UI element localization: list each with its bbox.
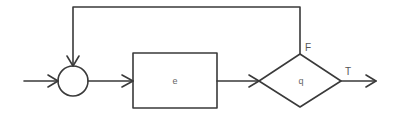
decision-node: q <box>259 54 341 107</box>
input-edge <box>24 75 58 87</box>
process-node: e <box>133 53 217 108</box>
decision-label: q <box>298 76 303 86</box>
process-label: e <box>172 76 177 86</box>
junction-node <box>58 66 88 96</box>
process-to-decision-edge <box>217 75 259 87</box>
false-branch-edge: F <box>67 7 311 66</box>
true-branch-edge: T <box>341 66 376 87</box>
true-branch-label: T <box>345 66 351 77</box>
flowchart-diagram: e q T F <box>0 0 399 117</box>
false-branch-label: F <box>305 42 311 53</box>
junction-to-process-edge <box>88 75 133 87</box>
